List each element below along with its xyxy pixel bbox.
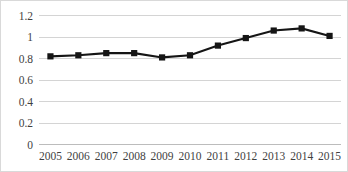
data-point-marker [243,35,249,41]
data-point-marker [187,52,193,58]
data-point-marker [47,53,53,59]
data-point-marker [103,50,109,56]
data-point-marker [215,43,221,49]
x-tick-label: 2006 [67,150,90,162]
data-point-marker [159,54,165,60]
line-chart-figure: 1.210.80.60.40.20 2005200620072008200920… [0,0,348,172]
y-tick-label: 0 [27,139,33,151]
chart-background [1,1,348,172]
y-tick-label: 0.8 [19,53,34,65]
chart-canvas: 1.210.80.60.40.20 2005200620072008200920… [1,1,348,172]
x-tick-label: 2008 [123,150,146,162]
data-point-marker [299,25,305,31]
y-tick-label: 0.2 [19,117,34,129]
data-point-marker [326,33,332,39]
data-point-marker [271,27,277,33]
x-tick-label: 2009 [151,150,174,162]
x-tick-label: 2013 [262,150,285,162]
y-tick-label: 1.2 [19,10,34,22]
y-tick-label: 1 [27,31,33,43]
y-tick-label: 0.4 [19,96,34,108]
x-tick-label: 2010 [179,150,202,162]
x-tick-label: 2007 [95,150,118,162]
data-point-marker [75,52,81,58]
y-tick-label: 0.6 [19,74,34,86]
x-tick-label: 2014 [290,150,313,162]
x-tick-label: 2015 [318,150,341,162]
x-tick-label: 2011 [207,150,230,162]
x-tick-label: 2005 [39,150,62,162]
data-point-marker [131,50,137,56]
x-tick-label: 2012 [234,150,257,162]
x-axis-tick-labels: 2005200620072008200920102011201220132014… [39,150,341,162]
